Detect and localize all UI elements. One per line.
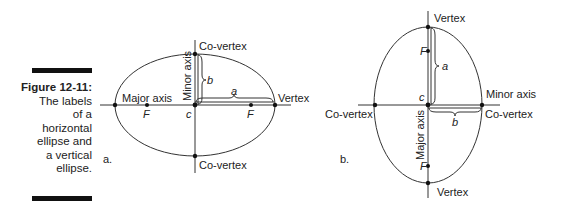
b-brace [429,108,481,116]
b-label: b [452,116,458,128]
left-vertex-point [113,103,117,107]
a-brace [431,28,439,104]
top-vertex-label: Vertex [434,12,466,24]
a-label: a [231,85,237,97]
major-axis-label: Major axis [414,109,426,160]
minor-axis-label: Minor axis [181,50,193,101]
center-point [193,103,198,108]
vertex-label: Vertex [278,92,310,104]
top-covertex-point [193,52,197,56]
left-covertex-label: Co-vertex [325,108,373,120]
panel-label-a: a. [103,153,112,165]
center-label: c [186,108,192,120]
ellipse-diagrams: Co-vertex Co-vertex Vertex Major axis Mi… [0,0,564,214]
minor-axis-label: Minor axis [486,88,537,100]
center-label: c [419,91,425,103]
bottom-vertex-label: Vertex [437,186,469,198]
a-label: a [442,60,448,72]
bottom-covertex-label: Co-vertex [199,159,247,171]
focus-left-label: F [143,108,151,120]
focus-right-label: F [247,108,255,120]
bottom-vertex-point [426,181,430,185]
panel-label-b: b. [340,153,349,165]
b-label: b [207,74,213,86]
major-axis-label: Major axis [122,92,173,104]
right-covertex-label: Co-vertex [485,108,533,120]
center-point [426,103,431,108]
b-brace [198,55,206,104]
right-covertex-point [480,103,484,107]
focus-point [249,103,253,107]
right-vertex-point [273,103,277,107]
left-covertex-point [373,103,377,107]
bottom-covertex-point [193,154,197,158]
top-covertex-label: Co-vertex [199,40,247,52]
top-vertex-point [426,25,430,29]
